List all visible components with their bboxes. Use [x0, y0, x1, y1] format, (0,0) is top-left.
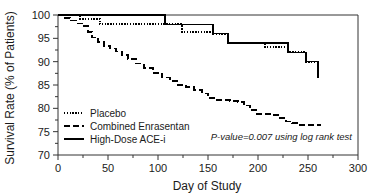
y-axis-title: Survival Rate (% of Patients)	[3, 11, 17, 164]
x-tick-label: 300	[349, 162, 367, 174]
x-axis-title: Day of Study	[173, 179, 242, 193]
y-tick-label: 70	[38, 149, 50, 161]
x-tick-label: 0	[55, 162, 61, 174]
y-tick-label: 80	[38, 102, 50, 114]
x-tick-label: 200	[249, 162, 267, 174]
p-value-annotation: P-value=0.007 using log rank test	[211, 131, 353, 142]
legend-label-combined-enrasentan: Combined Enrasentan	[90, 121, 190, 132]
x-tick-label: 100	[149, 162, 167, 174]
y-tick-label: 85	[38, 79, 50, 91]
legend-label-placebo: Placebo	[90, 108, 127, 119]
legend-label-high-dose-ace-i: High-Dose ACE-i	[90, 134, 166, 145]
y-tick-label: 75	[38, 126, 50, 138]
y-tick-label: 100	[32, 9, 50, 21]
kaplan-meier-plot: 050100150200250300 707580859095100 Place…	[0, 0, 379, 195]
x-tick-label: 250	[299, 162, 317, 174]
survival-curve-figure: 050100150200250300 707580859095100 Place…	[0, 0, 379, 195]
x-tick-label: 150	[199, 162, 217, 174]
y-tick-label: 95	[38, 32, 50, 44]
y-tick-label: 90	[38, 56, 50, 68]
x-tick-label: 50	[102, 162, 114, 174]
